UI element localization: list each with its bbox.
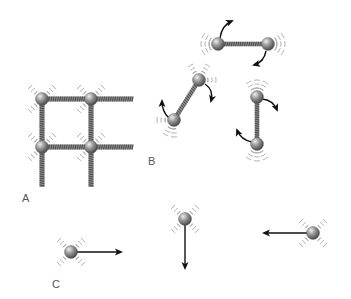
atom	[179, 213, 192, 226]
figure-stage: A B C	[0, 0, 351, 299]
atom	[251, 138, 264, 151]
atom	[65, 246, 78, 259]
atom	[212, 38, 225, 51]
rotation-arrow	[262, 99, 277, 110]
panel-label-a: A	[22, 192, 29, 204]
atom	[36, 141, 49, 154]
rotation-arrow	[237, 130, 252, 142]
panel-label-c: C	[52, 278, 60, 290]
atom	[251, 91, 264, 104]
rotation-arrow	[205, 84, 212, 101]
atom	[85, 93, 98, 106]
rotation-arrow	[162, 101, 169, 118]
panel-label-b: B	[148, 155, 155, 167]
atom	[36, 93, 49, 106]
spring	[255, 97, 260, 144]
vibration-arcs	[246, 80, 268, 91]
atom	[307, 227, 320, 240]
spring	[218, 42, 268, 47]
diagram-canvas	[0, 0, 351, 299]
rotation-arrow	[220, 21, 232, 38]
atom	[85, 141, 98, 154]
vibration-arcs	[246, 150, 268, 161]
vibration-arcs	[274, 33, 285, 55]
atom	[262, 38, 275, 51]
atom	[193, 74, 206, 87]
vibration-arcs	[201, 33, 212, 55]
atom	[168, 114, 181, 127]
rotation-arrow	[254, 51, 266, 65]
